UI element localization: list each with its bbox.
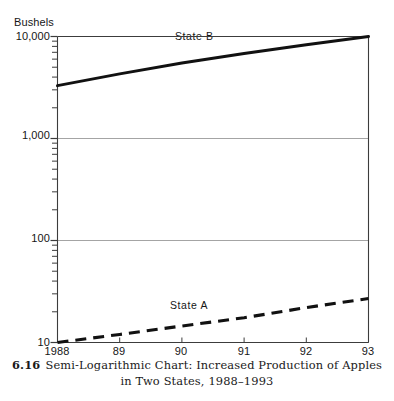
x-axis-ticks-group [58,338,369,343]
gridlines-group [58,139,369,241]
series-line-state-a [58,299,369,343]
series-lines-group [58,37,369,343]
series-line-state-b [58,37,369,86]
chart-svg-canvas [0,0,394,358]
caption-line-1: 6.16Semi-Logarithmic Chart: Increased Pr… [0,358,394,374]
figure-caption: 6.16Semi-Logarithmic Chart: Increased Pr… [0,358,394,389]
y-axis-minor-ticks-group [51,37,58,343]
plot-frame [58,37,369,343]
chart-plot-area: Bushels 10,000 1,000 100 10 1988 89 90 9… [0,0,394,358]
caption-text-1: Semi-Logarithmic Chart: Increased Produc… [45,358,382,372]
figure-number: 6.16 [12,358,41,372]
figure-semi-logarithmic-chart: Bushels 10,000 1,000 100 10 1988 89 90 9… [0,0,394,401]
caption-line-2: in Two States, 1988–1993 [0,374,394,390]
